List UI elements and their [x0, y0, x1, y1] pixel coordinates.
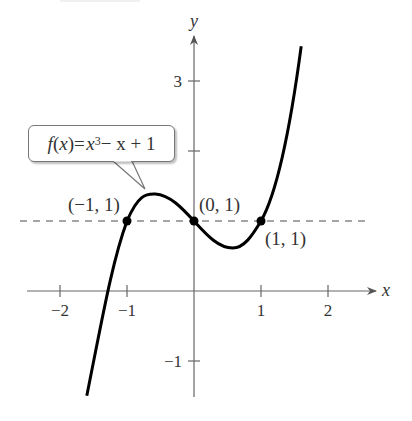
- fn-rest: − x + 1: [101, 133, 156, 155]
- x-tick-label: 1: [257, 301, 266, 320]
- x-axis-label: x: [381, 280, 390, 300]
- fn-name: f: [48, 133, 53, 155]
- point-label: (1, 1): [265, 228, 306, 250]
- fn-exp: 3: [95, 134, 101, 149]
- chart-canvas: −2 −1 1 2 3 −1 x y (−1, 1) (0, 1) (1, 1): [0, 0, 412, 421]
- y-axis-label: y: [188, 11, 198, 31]
- x-tick-label: 2: [324, 301, 333, 320]
- x-tick-label: −1: [118, 301, 136, 320]
- point-0-1: [190, 217, 199, 226]
- fn-base: x: [86, 133, 94, 155]
- point-neg1-1: [123, 217, 132, 226]
- callout-tail: [113, 161, 145, 189]
- function-label-callout: f(x) = x3 − x + 1: [28, 125, 175, 162]
- point-label: (0, 1): [199, 194, 240, 216]
- y-tick-label: −1: [164, 352, 182, 371]
- x-tick-label: −2: [51, 301, 69, 320]
- y-tick-label: 3: [174, 72, 183, 91]
- point-1-1: [257, 217, 266, 226]
- fn-arg: x: [59, 133, 67, 155]
- point-label: (−1, 1): [68, 194, 120, 216]
- fn-eq: =: [74, 133, 85, 155]
